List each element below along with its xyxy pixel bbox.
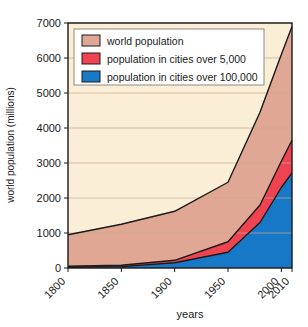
x-tick-label: 1900 xyxy=(148,275,174,301)
y-axis-title: world population (millions) xyxy=(5,87,16,204)
y-axis: 01000200030004000500060007000 xyxy=(37,17,68,274)
legend-swatch xyxy=(82,35,100,46)
y-tick-label: 1000 xyxy=(37,227,61,239)
y-tick-label: 3000 xyxy=(37,157,61,169)
legend-label: population in cities over 5,000 xyxy=(107,53,246,65)
legend-label: population in cities over 100,000 xyxy=(107,71,258,83)
x-axis: 180018501900195020002010 xyxy=(42,268,292,301)
legend-swatch xyxy=(82,53,100,64)
y-tick-label: 5000 xyxy=(37,87,61,99)
chart-figure: 01000200030004000500060007000 1800185019… xyxy=(0,0,308,327)
chart-legend: world populationpopulation in cities ove… xyxy=(74,29,264,85)
legend-swatch xyxy=(82,71,100,82)
y-tick-label: 4000 xyxy=(37,122,61,134)
x-tick-label: 1850 xyxy=(95,275,121,301)
y-tick-label: 2000 xyxy=(37,192,61,204)
y-tick-label: 7000 xyxy=(37,17,61,29)
x-axis-title: years xyxy=(177,308,204,320)
legend-label: world population xyxy=(106,35,184,47)
y-tick-label: 6000 xyxy=(37,52,61,64)
population-area-chart: 01000200030004000500060007000 1800185019… xyxy=(0,0,308,327)
y-tick-label: 0 xyxy=(55,262,61,274)
x-tick-label: 1950 xyxy=(202,275,228,301)
x-tick-label: 1800 xyxy=(42,275,68,301)
